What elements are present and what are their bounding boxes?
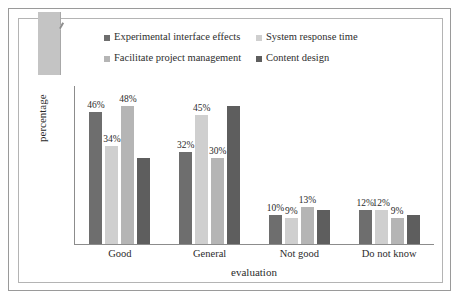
- bar[interactable]: [269, 215, 282, 244]
- bar[interactable]: [407, 215, 420, 244]
- bar-value-label: 13%: [299, 196, 316, 206]
- bar[interactable]: [359, 210, 372, 244]
- bar[interactable]: [195, 115, 208, 244]
- bar-value-label: 30%: [209, 147, 226, 157]
- bar-slot: 45%: [195, 86, 208, 244]
- bar-slot: [407, 86, 420, 244]
- bar-value-label: 48%: [119, 95, 136, 105]
- x-axis-tick-label: General: [165, 248, 255, 259]
- bar[interactable]: [121, 106, 134, 244]
- bar-value-label: 9%: [391, 207, 404, 217]
- bar[interactable]: [285, 218, 298, 244]
- bar-group: 12%12%9%: [344, 86, 434, 244]
- bar[interactable]: [391, 218, 404, 244]
- bar-slot: [317, 86, 330, 244]
- scan-artifact-block: [38, 12, 61, 75]
- bar-slot: 12%: [359, 86, 372, 244]
- figure-container: Experimental interface effectsSystem res…: [0, 0, 461, 301]
- bar-slot: 9%: [391, 86, 404, 244]
- bar-slot: 30%: [211, 86, 224, 244]
- bar-slot: 48%: [121, 86, 134, 244]
- legend-item[interactable]: System response time: [256, 32, 394, 43]
- legend-swatch-icon: [256, 35, 262, 41]
- bar-group: 46%34%48%: [75, 86, 165, 244]
- bar-value-label: 34%: [103, 135, 120, 145]
- x-axis-tick-label: Not good: [255, 248, 345, 259]
- bar-slot: 46%: [89, 86, 102, 244]
- plot-area: 46%34%48%32%45%30%10%9%13%12%12%9% GoodG…: [74, 86, 434, 245]
- bar[interactable]: [227, 106, 240, 244]
- x-axis-tick-label: Good: [75, 248, 165, 259]
- bar-value-label: 12%: [356, 199, 373, 209]
- bar-slot: 10%: [269, 86, 282, 244]
- legend-item-label: Content design: [266, 53, 329, 64]
- bar-slot: 34%: [105, 86, 118, 244]
- bar-slot: 13%: [301, 86, 314, 244]
- bar-value-label: 10%: [267, 204, 284, 214]
- bar[interactable]: [375, 210, 388, 244]
- bar-slot: 32%: [179, 86, 192, 244]
- legend-item[interactable]: Experimental interface effects: [104, 32, 256, 43]
- legend-item-label: Experimental interface effects: [114, 32, 240, 43]
- bar-value-label: 12%: [372, 199, 389, 209]
- bar-slot: [137, 86, 150, 244]
- bar[interactable]: [211, 158, 224, 244]
- chart-legend: Experimental interface effectsSystem res…: [104, 27, 394, 69]
- legend-item[interactable]: Facilitate project management: [104, 53, 256, 64]
- x-axis-tick-labels: GoodGeneralNot goodDo not know: [75, 248, 434, 259]
- bar-group: 10%9%13%: [255, 86, 345, 244]
- legend-item-label: Facilitate project management: [114, 53, 241, 64]
- legend-item-label: System response time: [266, 32, 358, 43]
- bar-slot: 9%: [285, 86, 298, 244]
- bar[interactable]: [317, 210, 330, 244]
- bar-value-label: 46%: [87, 101, 104, 111]
- bar[interactable]: [137, 158, 150, 244]
- legend-swatch-icon: [104, 35, 110, 41]
- bar-slot: 12%: [375, 86, 388, 244]
- bar-value-label: 45%: [193, 104, 210, 114]
- bar-slot: [227, 86, 240, 244]
- bar-value-label: 32%: [177, 141, 194, 151]
- bar[interactable]: [105, 146, 118, 244]
- y-axis-title: percentage: [36, 94, 48, 142]
- bar[interactable]: [179, 152, 192, 244]
- legend-swatch-icon: [256, 56, 262, 62]
- legend-item[interactable]: Content design: [256, 53, 394, 64]
- legend-swatch-icon: [104, 56, 110, 62]
- bar[interactable]: [89, 112, 102, 244]
- x-axis-tick-label: Do not know: [344, 248, 434, 259]
- bar-value-label: 9%: [285, 207, 298, 217]
- bar-groups: 46%34%48%32%45%30%10%9%13%12%12%9%: [75, 86, 434, 244]
- x-axis-title: evaluation: [74, 266, 434, 278]
- x-axis-line: [74, 244, 434, 245]
- bar[interactable]: [301, 207, 314, 244]
- bar-group: 32%45%30%: [165, 86, 255, 244]
